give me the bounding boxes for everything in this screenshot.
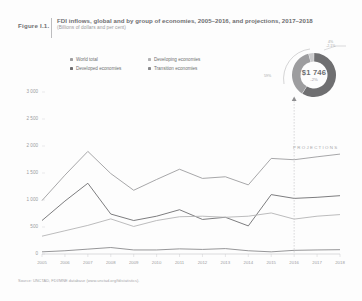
x-axis-tick-label: 2006 [54, 260, 76, 265]
series-line [42, 183, 340, 226]
legend-label: Developed economies [76, 66, 121, 71]
legend-label: Transition economies [154, 66, 198, 71]
title-divider [51, 18, 52, 38]
x-axis-tick-label: 2010 [146, 260, 168, 265]
legend-item-developing-economies[interactable]: Developing economies [148, 57, 200, 62]
legend-label: World total [76, 57, 98, 62]
chart-legend: World total Developed economies Developi… [70, 57, 220, 77]
x-axis-tick-label: 2007 [77, 260, 99, 265]
figure-title: FDI inflows, global and by group of econ… [57, 17, 357, 24]
projection-arrow-icon [292, 97, 297, 102]
legend-swatch-icon [70, 67, 73, 70]
legend-swatch-icon [148, 58, 151, 61]
series-line [42, 213, 340, 236]
line-chart: 05001 0001 5002 0002 5003 000 2005200620… [16, 88, 346, 268]
x-axis-tick-label: 2009 [123, 260, 145, 265]
x-axis-tick-label: 2011 [169, 260, 191, 265]
x-axis-tick-label: 2018 [329, 260, 351, 265]
legend-label: Developing economies [154, 57, 200, 62]
y-axis-tick-label: 500 [16, 224, 38, 229]
x-axis-tick-label: 2017 [306, 260, 328, 265]
x-axis-tick-label: 2015 [260, 260, 282, 265]
legend-item-transition-economies[interactable]: Transition economies [148, 66, 197, 71]
legend-item-developed-economies[interactable]: Developed economies [70, 66, 121, 71]
figure-page: Figure I.1. FDI inflows, global and by g… [0, 0, 362, 301]
line-chart-svg [16, 88, 346, 268]
y-axis-tick-label: 0 [16, 251, 38, 256]
figure-number: Figure I.1. [18, 22, 49, 29]
y-axis-tick-label: 2 500 [16, 116, 38, 121]
legend-item-world-total[interactable]: World total [70, 57, 98, 62]
figure-subtitle: (Billions of dollars and per cent) [57, 25, 357, 30]
legend-swatch-icon [70, 58, 73, 61]
donut-label-transition-change: -2.1% [326, 44, 335, 48]
x-axis-tick-label: 2013 [214, 260, 236, 265]
x-axis-tick-label: 2008 [100, 260, 122, 265]
donut-label-transition-share: 4% -2.1% [326, 40, 335, 48]
legend-swatch-icon [148, 67, 151, 70]
y-axis-tick-label: 2 000 [16, 143, 38, 148]
x-axis-tick-label: 2014 [237, 260, 259, 265]
x-axis-tick-label: 2005 [31, 260, 53, 265]
projections-annotation: PROJECTIONS [293, 145, 339, 150]
x-axis-tick-label: 2012 [191, 260, 213, 265]
series-line [42, 248, 340, 252]
y-axis-tick-label: 3 000 [16, 89, 38, 94]
series-line [42, 151, 340, 200]
y-axis-tick-label: 1 000 [16, 197, 38, 202]
donut-label-developing-share: 59% [264, 74, 271, 78]
y-axis-tick-label: 1 500 [16, 170, 38, 175]
source-note: Source: UNCTAD, FDI/MNE database (www.un… [18, 278, 139, 283]
x-axis-tick-label: 2016 [283, 260, 305, 265]
